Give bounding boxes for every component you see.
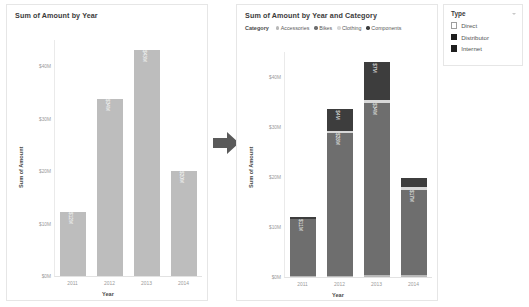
segment-bikes: $28M — [327, 133, 353, 276]
segment-components: $7M — [364, 62, 390, 100]
right-xtick-2011: 2011 — [290, 282, 316, 287]
right-bar-col-2012[interactable]: $4M $28M — [327, 52, 353, 277]
right-bar-2012[interactable]: $4M $28M — [327, 109, 353, 277]
left-xtick-2011: 2011 — [60, 281, 86, 286]
type-slicer-title: Type — [451, 10, 465, 17]
left-bar-segment: $43M — [134, 50, 160, 276]
right-ytick-10m: $10M — [251, 225, 281, 230]
segment-components: $4M — [327, 109, 353, 131]
left-bar-col-2014[interactable]: $20M — [171, 40, 197, 276]
right-bar-col-2011[interactable]: $11M — [290, 52, 316, 277]
segment-accessories — [401, 275, 427, 277]
left-yaxis-title: Sum of Amount — [18, 147, 24, 188]
right-xtick-2014: 2014 — [401, 282, 427, 287]
left-xtick-2014: 2014 — [171, 281, 197, 286]
right-bar-2013[interactable]: $7M $34M — [364, 62, 390, 277]
segment-bikes: $11M — [290, 219, 316, 276]
slicer-item-direct[interactable]: Direct — [451, 22, 517, 29]
segment-accessories — [364, 275, 390, 277]
segment-value-label: $11M — [298, 219, 303, 231]
screenshot-root: Sum of Amount by Year Sum of Amount $40M… — [0, 0, 529, 307]
segment-value-label: $4M — [335, 110, 340, 119]
left-bar-value-label: $12M — [68, 212, 73, 224]
left-xaxis-ticks: 2011 2012 2013 2014 — [54, 281, 202, 286]
chevron-down-icon[interactable] — [512, 13, 516, 15]
left-bar-col-2012[interactable]: $34M — [97, 40, 123, 276]
left-ytick-10m: $10M — [21, 222, 51, 227]
right-ytick-0m: $0M — [251, 275, 281, 280]
segment-components — [401, 178, 427, 188]
left-ytick-0m: $0M — [21, 274, 51, 279]
left-plot-area: Sum of Amount $40M $30M $20M $10M $0M $1… — [7, 5, 209, 302]
left-xaxis-title: Year — [7, 291, 209, 297]
left-bar-value-label: $43M — [142, 50, 147, 62]
right-xtick-2012: 2012 — [327, 282, 353, 287]
checkbox-distributor[interactable] — [451, 34, 457, 40]
left-xtick-2013: 2013 — [134, 281, 160, 286]
segment-value-label: $28M — [335, 133, 340, 145]
right-bar-col-2014[interactable]: $17M — [401, 52, 427, 277]
left-ytick-30m: $30M — [21, 117, 51, 122]
type-slicer-items: Direct Distributor Internet — [451, 22, 517, 52]
right-plot-canvas: $11M $4M $28M — [284, 52, 432, 278]
right-bar-2011[interactable]: $11M — [290, 217, 316, 278]
segment-accessories — [290, 276, 316, 277]
left-bar-2014[interactable]: $20M — [171, 171, 197, 276]
slicer-item-internet[interactable]: Internet — [451, 45, 517, 52]
checkbox-internet[interactable] — [451, 45, 457, 51]
left-xtick-2012: 2012 — [97, 281, 123, 286]
left-bar-segment: $12M — [60, 212, 86, 276]
left-ytick-20m: $20M — [21, 169, 51, 174]
right-xaxis-title: Year — [237, 292, 439, 298]
slicer-item-label: Distributor — [461, 34, 489, 41]
slicer-item-distributor[interactable]: Distributor — [451, 34, 517, 41]
right-ytick-30m: $30M — [251, 125, 281, 130]
type-slicer-panel[interactable]: Type Direct Distributor Internet — [443, 4, 523, 66]
right-plot-area: Sum of Amount $40M $30M $20M $10M $0M $1… — [237, 5, 439, 302]
right-bar-2014[interactable]: $17M — [401, 178, 427, 278]
segment-value-label: $7M — [372, 63, 377, 72]
left-bar-group: $12M $34M — [55, 40, 202, 276]
right-xtick-2013: 2013 — [364, 282, 390, 287]
slicer-item-label: Internet — [461, 45, 482, 52]
left-bar-value-label: $20M — [179, 171, 184, 183]
left-bar-segment: $34M — [97, 99, 123, 276]
right-ytick-20m: $20M — [251, 175, 281, 180]
segment-value-label: $17M — [409, 190, 414, 202]
segment-value-label: $34M — [372, 103, 377, 115]
left-ytick-40m: $40M — [21, 64, 51, 69]
right-xaxis-ticks: 2011 2012 2013 2014 — [284, 282, 432, 287]
left-plot-canvas: $12M $34M — [54, 40, 202, 277]
checkbox-direct[interactable] — [451, 22, 457, 28]
segment-bikes: $34M — [364, 103, 390, 275]
right-yaxis-title: Sum of Amount — [248, 147, 254, 188]
right-ytick-40m: $40M — [251, 75, 281, 80]
left-bar-2012[interactable]: $34M — [97, 99, 123, 276]
left-bar-segment: $20M — [171, 171, 197, 276]
right-bar-group: $11M $4M $28M — [285, 52, 432, 277]
segment-bikes: $17M — [401, 190, 427, 276]
left-bar-2013[interactable]: $43M — [134, 50, 160, 276]
left-chart-panel[interactable]: Sum of Amount by Year Sum of Amount $40M… — [6, 4, 208, 301]
right-bar-col-2013[interactable]: $7M $34M — [364, 52, 390, 277]
left-bar-value-label: $34M — [105, 99, 110, 111]
slicer-item-label: Direct — [461, 22, 477, 29]
left-bar-2011[interactable]: $12M — [60, 212, 86, 276]
left-bar-col-2013[interactable]: $43M — [134, 40, 160, 276]
right-chart-panel[interactable]: Sum of Amount by Year and Category Categ… — [236, 4, 438, 301]
left-bar-col-2011[interactable]: $12M — [60, 40, 86, 276]
segment-accessories — [327, 276, 353, 278]
